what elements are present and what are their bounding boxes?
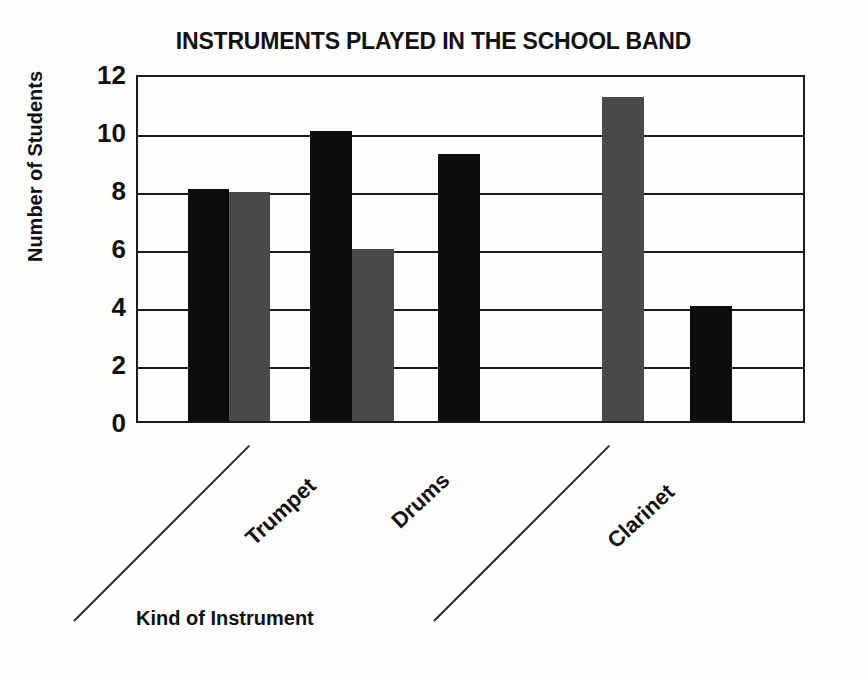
bar-6	[690, 306, 732, 421]
y-tick-12: 12	[82, 62, 126, 88]
bar-chart: INSTRUMENTS PLAYED IN THE SCHOOL BAND 12…	[0, 0, 867, 679]
chart-title: INSTRUMENTS PLAYED IN THE SCHOOL BAND	[0, 28, 867, 55]
y-tick-10: 10	[82, 120, 126, 146]
y-tick-8: 8	[82, 178, 126, 204]
x-label-trumpet: Trumpet	[240, 473, 321, 551]
x-label-clarinet: Clarinet	[602, 479, 680, 554]
bar-5	[602, 97, 644, 421]
leader-line-1	[73, 445, 250, 622]
x-axis-title: Kind of Instrument	[136, 607, 314, 630]
bar-1	[229, 192, 270, 421]
y-tick-4: 4	[82, 294, 126, 320]
x-label-drums: Drums	[386, 467, 455, 534]
bar-0	[188, 189, 229, 421]
leader-line-2	[433, 445, 610, 622]
plot-area	[136, 75, 805, 423]
bar-4	[438, 154, 480, 421]
gridline-10	[138, 135, 803, 137]
bar-2	[310, 131, 352, 421]
y-tick-6: 6	[82, 236, 126, 262]
y-tick-0: 0	[82, 410, 126, 436]
y-tick-2: 2	[82, 352, 126, 378]
y-axis-title: Number of Students	[24, 67, 47, 267]
bar-3	[352, 249, 394, 421]
y-axis-tick-labels: 12 10 8 6 4 2 0	[68, 75, 126, 423]
